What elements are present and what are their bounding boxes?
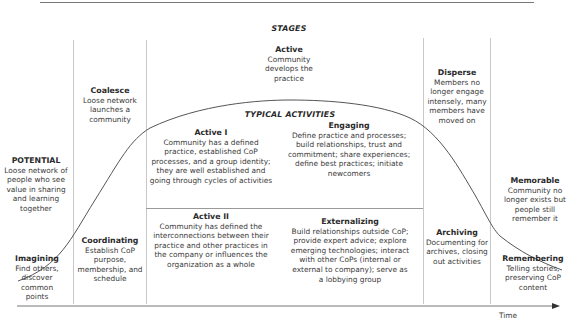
- activity-coordinating: Coordinating Establish CoP purpose, memb…: [76, 236, 144, 284]
- substage-name: Active II: [148, 212, 274, 222]
- stage-name: Active: [239, 45, 339, 55]
- activity-desc: Build relationships outside CoP; provide…: [291, 227, 409, 284]
- activity-remembering: Remembering Telling stories, preserving …: [493, 254, 573, 292]
- activity-desc: Establish CoP purpose, membership, and s…: [77, 246, 142, 284]
- substage-active-1: Active I Community has a defined practic…: [148, 128, 274, 186]
- stage-desc: Loose network launches a community: [83, 96, 137, 124]
- activity-desc: Documenting for archives, closing out ac…: [426, 238, 488, 266]
- activity-engaging: Engaging Define practice and processes; …: [283, 121, 415, 179]
- activity-archiving: Archiving Documenting for archives, clos…: [425, 228, 489, 266]
- activity-name: Coordinating: [76, 236, 144, 246]
- substage-name: Active I: [148, 128, 274, 138]
- substage-active-2: Active II Community has defined the inte…: [148, 212, 274, 270]
- stage-name: POTENTIAL: [2, 156, 70, 166]
- stage-desc: Members no longer engage intensely, many…: [427, 78, 486, 125]
- activity-name: Engaging: [283, 121, 415, 131]
- activity-desc: Telling stories, preserving CoP content: [497, 264, 569, 293]
- stage-desc: Community no longer exists but people st…: [499, 186, 571, 224]
- stage-name: Disperse: [425, 68, 489, 78]
- activity-name: Externalizing: [290, 217, 410, 227]
- substage-desc: Community has a defined practice, establ…: [150, 138, 272, 185]
- activity-imagining: Imagining Find others, discover common p…: [6, 254, 68, 302]
- stage-desc: Community develops the practice: [259, 55, 319, 84]
- stage-name: Memorable: [493, 176, 577, 186]
- substage-desc: Community has defined the interconnectio…: [153, 222, 269, 269]
- stage-disperse: Disperse Members no longer engage intens…: [425, 68, 489, 126]
- stages-title: STAGES: [239, 24, 339, 33]
- time-axis-label: Time: [488, 311, 528, 321]
- activity-desc: Find others, discover common points: [11, 264, 63, 302]
- activities-title: TYPICAL ACTIVITIES: [220, 110, 360, 119]
- activity-desc: Define practice and processes; build rel…: [288, 131, 410, 178]
- stage-desc: Loose network of people who see value in…: [4, 166, 67, 213]
- stage-name: Coalesce: [78, 86, 142, 96]
- activity-name: Imagining: [6, 254, 68, 264]
- activity-name: Archiving: [425, 228, 489, 238]
- activity-externalizing: Externalizing Build relationships outsid…: [290, 217, 410, 284]
- stage-memorable: Memorable Community no longer exists but…: [493, 176, 577, 224]
- axis-arrow-icon: [552, 303, 560, 309]
- stage-potential: POTENTIAL Loose network of people who se…: [2, 156, 70, 214]
- stage-coalesce: Coalesce Loose network launches a commun…: [78, 86, 142, 124]
- stage-active: Active Community develops the practice: [239, 45, 339, 83]
- activity-name: Remembering: [493, 254, 573, 264]
